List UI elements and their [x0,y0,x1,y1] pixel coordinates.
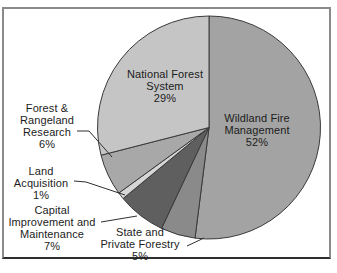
pie-chart-figure: National Forest System 29% Wildland Fire… [0,0,337,273]
slice-label-forest-rangeland-research: Forest & Rangeland Research 6% [20,102,74,150]
slice-label-land-acquisition: Land Acquisition 1% [14,165,68,201]
leader-line-state-private-forestry [187,238,204,246]
slice-label-state-private-forestry: State and Private Forestry 5% [100,226,179,262]
slice-label-capital-improvement: Capital Improvement and Maintenance 7% [8,204,95,252]
slice-label-national-forest-system: National Forest System 29% [127,68,203,104]
leader-line-capital-improvement [101,216,137,222]
slice-label-wildland-fire-management: Wildland Fire Management 52% [224,112,290,148]
